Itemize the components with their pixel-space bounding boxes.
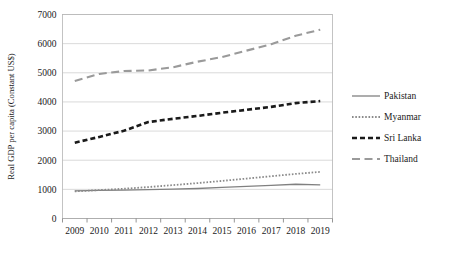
x-tick-label: 2019 bbox=[311, 226, 330, 236]
x-tick-label: 2011 bbox=[115, 226, 134, 236]
y-tick-label: 0 bbox=[52, 214, 57, 224]
x-tick-label: 2015 bbox=[213, 226, 232, 236]
series-line-sri-lanka bbox=[75, 101, 320, 143]
legend-label-thailand: Thailand bbox=[384, 154, 418, 164]
y-tick-label: 4000 bbox=[38, 97, 57, 107]
chart-container: 01000200030004000500060007000 2009201020… bbox=[0, 0, 450, 253]
x-tick-label: 2009 bbox=[65, 226, 84, 236]
x-tick-label: 2018 bbox=[286, 226, 305, 236]
x-tick-label: 2013 bbox=[163, 226, 182, 236]
y-tick-label: 2000 bbox=[38, 156, 57, 166]
x-tick-label: 2017 bbox=[262, 226, 281, 236]
x-tick-label: 2012 bbox=[139, 226, 158, 236]
y-tick-label: 7000 bbox=[38, 10, 57, 20]
legend-label-sri-lanka: Sri Lanka bbox=[384, 133, 422, 143]
legend-label-myanmar: Myanmar bbox=[384, 112, 422, 122]
y-tick-label: 5000 bbox=[38, 68, 57, 78]
data-series-group bbox=[75, 30, 320, 192]
y-tick-label: 6000 bbox=[38, 39, 57, 49]
x-axis-tick-labels: 2009201020112012201320142015201620172018… bbox=[65, 226, 330, 236]
y-axis-tick-labels: 01000200030004000500060007000 bbox=[38, 10, 57, 224]
series-line-thailand bbox=[75, 30, 320, 81]
x-tick-label: 2010 bbox=[90, 226, 109, 236]
x-tick-label: 2014 bbox=[188, 226, 207, 236]
line-chart: 01000200030004000500060007000 2009201020… bbox=[0, 0, 450, 253]
chart-legend: PakistanMyanmarSri LankaThailand bbox=[352, 91, 422, 164]
y-tick-label: 1000 bbox=[38, 185, 57, 195]
legend-label-pakistan: Pakistan bbox=[384, 91, 416, 101]
y-tick-label: 3000 bbox=[38, 126, 57, 136]
x-axis-tick-marks bbox=[63, 219, 333, 223]
y-axis-title: Real GDP per capita (Constant US$) bbox=[6, 53, 16, 180]
x-tick-label: 2016 bbox=[237, 226, 256, 236]
